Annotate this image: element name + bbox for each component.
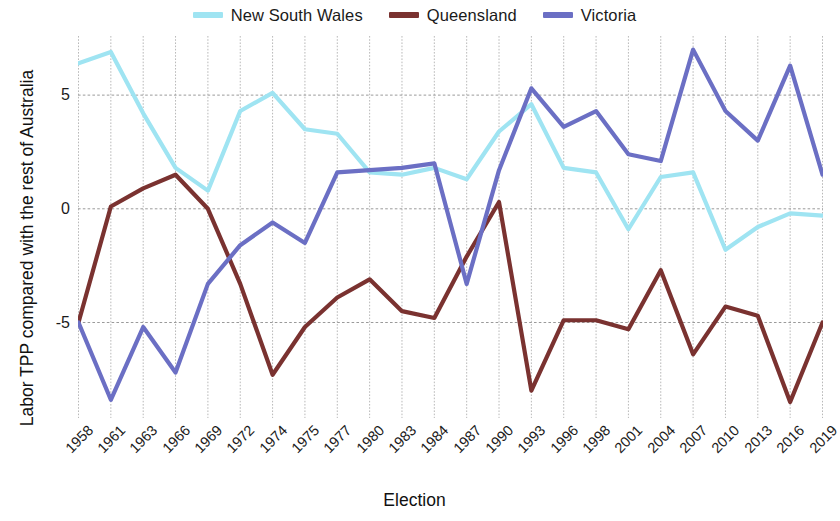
x-tick-label: 1990 [482, 422, 516, 456]
x-tick-label: 1966 [159, 422, 193, 456]
plot-area: 50-5 [78, 36, 823, 418]
x-tick-label: 1977 [320, 422, 354, 456]
x-tick-label: 1987 [450, 422, 484, 456]
x-tick-label: 1984 [417, 422, 451, 456]
x-tick-label: 2010 [709, 422, 743, 456]
chart-canvas [78, 36, 823, 418]
x-tick-label: 1993 [515, 422, 549, 456]
legend-label-queensland: Queensland [427, 6, 517, 25]
x-tick-label: 2019 [806, 422, 840, 456]
legend-label-victoria: Victoria [581, 6, 637, 25]
chart-legend: New South Wales Queensland Victoria [0, 0, 829, 30]
legend-swatch-victoria [543, 12, 573, 18]
legend-label-new-south-wales: New South Wales [231, 6, 363, 25]
legend-swatch-queensland [389, 12, 419, 18]
legend-swatch-new-south-wales [193, 12, 223, 18]
legend-item-queensland[interactable]: Queensland [389, 6, 517, 25]
x-tick-label: 1958 [62, 422, 96, 456]
legend-item-new-south-wales[interactable]: New South Wales [193, 6, 363, 25]
x-tick-label: 1974 [256, 422, 290, 456]
x-tick-label: 2001 [612, 422, 646, 456]
x-tick-label: 1972 [223, 422, 257, 456]
x-tick-label: 2016 [773, 422, 807, 456]
y-tick-label: 5 [61, 86, 78, 104]
x-axis-tick-labels: 1958196119631966196919721974197519771980… [78, 418, 823, 488]
y-tick-label: 0 [61, 200, 78, 218]
x-axis-title: Election [0, 490, 829, 511]
x-tick-label: 1963 [126, 422, 160, 456]
x-tick-label: 1975 [288, 422, 322, 456]
series-line-victoria [79, 50, 823, 400]
y-tick-label: -5 [56, 314, 78, 332]
x-tick-label: 1969 [191, 422, 225, 456]
y-axis-title: Labor TPP compared with the rest of Aust… [10, 28, 44, 468]
x-tick-label: 1998 [579, 422, 613, 456]
x-tick-label: 2004 [644, 422, 678, 456]
legend-item-victoria[interactable]: Victoria [543, 6, 637, 25]
x-tick-label: 1983 [385, 422, 419, 456]
x-tick-label: 2007 [676, 422, 710, 456]
x-tick-label: 1980 [353, 422, 387, 456]
x-tick-label: 1996 [547, 422, 581, 456]
x-tick-label: 1961 [94, 422, 128, 456]
x-tick-label: 2013 [741, 422, 775, 456]
